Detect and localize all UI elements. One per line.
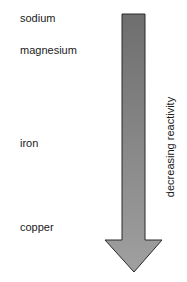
decreasing-reactivity-label: decreasing reactivity [163, 87, 177, 207]
down-arrow-icon [0, 0, 187, 282]
